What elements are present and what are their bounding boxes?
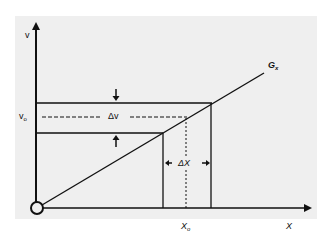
v0-label: vo	[19, 112, 27, 122]
v0-label-sub: o	[24, 116, 27, 122]
x0-label: Xo	[181, 222, 190, 232]
x0-label-sub: o	[187, 226, 190, 232]
delta-v-up-arrow-icon	[113, 135, 120, 147]
gx-label: Gx	[268, 61, 278, 71]
delta-v-label: Δv	[108, 112, 119, 121]
diagram-canvas	[0, 0, 332, 242]
y-axis-label: v	[25, 31, 30, 40]
delta-x-label: ΔX	[178, 159, 190, 168]
gx-label-sub: x	[275, 65, 278, 71]
delta-v-down-arrow-icon	[113, 89, 120, 101]
delta-x-left-arrow-icon	[202, 160, 210, 166]
gx-label-main: G	[268, 60, 275, 70]
gx-line	[42, 73, 264, 205]
x-axis-label: X	[286, 222, 292, 231]
delta-x-right-arrow-icon	[165, 160, 172, 166]
origin-circle	[31, 202, 43, 214]
